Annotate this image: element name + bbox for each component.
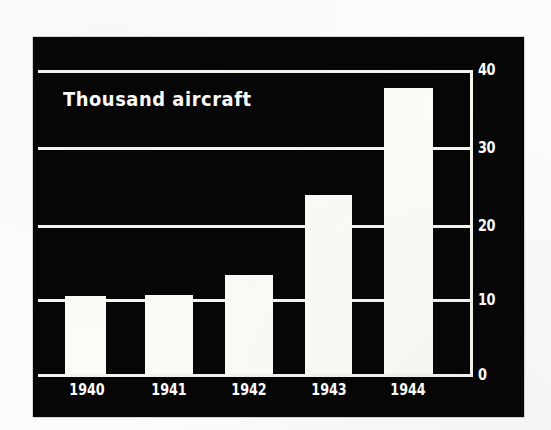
bar-1943 [305,195,352,377]
x-tick-label-1943: 1943 [300,383,358,398]
axis-baseline [38,374,473,377]
x-tick-label-1942: 1942 [220,383,278,398]
y-axis-line [470,70,473,377]
x-tick-label-1941: 1941 [140,383,198,398]
bar-1944 [384,88,433,377]
scanned-page: Thousand aircraft 40 30 20 10 0 1940 194… [0,0,551,430]
x-tick-label-1944: 1944 [379,383,437,398]
bar-1940 [65,296,106,377]
x-tick-label-1940: 1940 [58,383,116,398]
bar-1942 [225,275,273,377]
y-tick-label-20: 20 [478,219,495,234]
y-tick-label-40: 40 [478,63,495,78]
bar-1941 [145,295,193,377]
bar-chart-panel: Thousand aircraft 40 30 20 10 0 1940 194… [33,37,524,417]
y-tick-label-10: 10 [478,293,495,308]
chart-title: Thousand aircraft [63,88,252,110]
y-tick-label-0: 0 [478,368,487,383]
y-tick-label-30: 30 [478,141,495,156]
gridline-40 [38,70,473,73]
